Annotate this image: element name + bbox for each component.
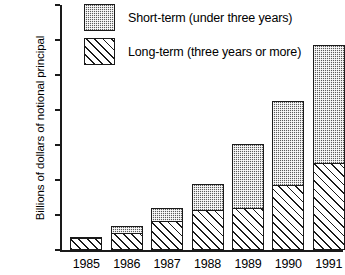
y-axis-tick-mark: [55, 249, 60, 251]
legend-item: Short-term (under three years): [84, 4, 292, 31]
bar-segment-short-term: [111, 226, 143, 235]
y-axis-tick-mark: [55, 144, 60, 146]
bar-group: [151, 207, 183, 250]
x-axis-tick-label: 1985: [64, 257, 108, 271]
bar-segment-short-term: [313, 45, 345, 164]
bar-segment-long-term: [313, 163, 345, 251]
legend-label: Short-term (under three years): [128, 11, 292, 25]
x-axis-tick-label: 1991: [307, 257, 345, 271]
bar-segment-long-term: [151, 221, 183, 250]
bar-segment-long-term: [111, 233, 143, 250]
bar-segment-short-term: [70, 237, 102, 239]
x-axis-tick-label: 1990: [266, 257, 310, 271]
legend-item: Long-term (three years or more): [84, 38, 301, 65]
legend-swatch-short-term: [84, 4, 115, 31]
bar-segment-long-term: [70, 238, 102, 250]
bar-group: [192, 183, 224, 250]
y-axis-tick-mark: [55, 74, 60, 76]
y-axis-tick-mark: [55, 214, 60, 216]
y-axis-tick-mark: [55, 179, 60, 181]
bar-segment-short-term: [272, 101, 304, 186]
y-axis-line: [60, 5, 62, 250]
legend-label: Long-term (three years or more): [128, 45, 301, 59]
bar-segment-long-term: [272, 185, 304, 250]
y-axis-tick-mark: [55, 4, 60, 6]
bar-segment-short-term: [192, 184, 224, 211]
legend-swatch-long-term: [84, 38, 115, 65]
x-axis-line: [60, 250, 343, 252]
bar-segment-short-term: [232, 144, 264, 209]
y-axis-title: Billions of dollars of notional principa…: [34, 3, 46, 253]
y-axis-tick-mark: [55, 109, 60, 111]
bar-group: [232, 143, 264, 250]
bar-group: [313, 44, 345, 251]
bar-segment-long-term: [232, 208, 264, 250]
x-axis-tick-label: 1987: [145, 257, 189, 271]
x-axis-tick-label: 1988: [186, 257, 230, 271]
bar-segment-short-term: [151, 208, 183, 222]
x-axis-tick-label: 1989: [226, 257, 270, 271]
x-axis-tick-label: 1986: [105, 257, 149, 271]
bar-group: [272, 100, 304, 250]
bar-group: [111, 224, 143, 250]
bar-group: [70, 236, 102, 250]
y-axis-tick-mark: [55, 39, 60, 41]
bar-chart: Billions of dollars of notional principa…: [0, 0, 345, 275]
bar-segment-long-term: [192, 210, 224, 250]
